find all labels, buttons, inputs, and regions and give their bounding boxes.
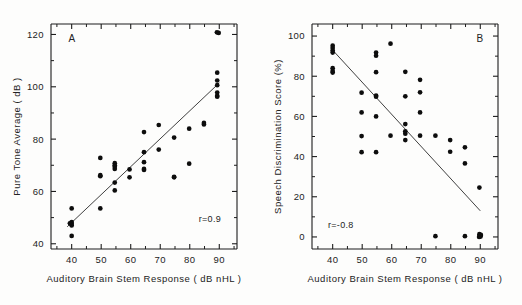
data-point <box>215 70 220 75</box>
panel-b: 405060708090020406080100Br=-0.8Auditory … <box>261 0 522 305</box>
y-tick-label: 0 <box>299 231 305 242</box>
data-point <box>127 175 132 180</box>
data-point <box>388 41 393 46</box>
panel-b-plot: 405060708090020406080100Br=-0.8Auditory … <box>261 0 522 305</box>
x-tick-label: 40 <box>66 254 77 265</box>
panel-letter: B <box>476 33 483 44</box>
data-point <box>374 94 379 99</box>
data-point <box>330 50 335 55</box>
x-tick-label: 90 <box>214 254 225 265</box>
regression-line <box>67 83 219 227</box>
correlation-annotation: r=-0.8 <box>328 220 354 230</box>
data-point <box>403 131 408 136</box>
y-axis-title: Pure Tone Average ( dB ) <box>11 77 22 195</box>
data-point <box>418 133 423 138</box>
data-point <box>69 234 74 239</box>
x-tick-label: 70 <box>155 254 166 265</box>
data-point <box>98 206 103 211</box>
x-tick-label: 70 <box>416 254 427 265</box>
data-point <box>359 90 364 95</box>
data-point <box>142 150 147 155</box>
data-point <box>403 94 408 99</box>
data-point <box>202 122 207 127</box>
y-tick-label: 60 <box>294 111 305 122</box>
data-point <box>359 110 364 115</box>
data-point <box>172 175 177 180</box>
data-point <box>374 70 379 75</box>
x-tick-label: 40 <box>327 254 338 265</box>
y-tick-label: 100 <box>27 81 44 92</box>
data-point <box>187 126 192 131</box>
data-point <box>112 180 117 185</box>
x-tick-label: 60 <box>125 254 136 265</box>
data-point <box>418 90 423 95</box>
figure-container: 405060708090406080100120Ar=0.9Auditory B… <box>0 0 522 305</box>
x-tick-label: 60 <box>386 254 397 265</box>
x-axis-title: Auditory Brain Stem Response ( dB nHL ) <box>308 273 503 284</box>
data-point <box>216 31 221 36</box>
data-point <box>403 122 408 127</box>
data-point <box>359 134 364 139</box>
y-tick-label: 120 <box>27 29 44 40</box>
data-point <box>215 94 220 99</box>
y-tick-label: 40 <box>294 151 305 162</box>
data-point <box>127 167 132 172</box>
panel-letter: A <box>68 33 75 44</box>
data-points <box>68 30 221 238</box>
data-point <box>112 188 117 193</box>
panel-a: 405060708090406080100120Ar=0.9Auditory B… <box>0 0 261 305</box>
data-point <box>98 156 103 161</box>
data-point <box>142 160 147 165</box>
data-point <box>156 147 161 152</box>
y-tick-label: 40 <box>33 238 44 249</box>
data-point <box>463 234 468 239</box>
data-point <box>463 161 468 166</box>
x-tick-label: 50 <box>96 254 107 265</box>
data-point <box>374 53 379 58</box>
data-points <box>330 41 483 239</box>
data-point <box>388 133 393 138</box>
data-point <box>142 168 147 173</box>
x-tick-label: 90 <box>475 254 486 265</box>
data-point <box>374 114 379 119</box>
x-tick-label: 50 <box>357 254 368 265</box>
data-point <box>142 130 147 135</box>
y-axis-title: Speech Discrimination Score (%) <box>272 59 283 214</box>
data-point <box>374 150 379 155</box>
y-tick-label: 80 <box>33 134 44 145</box>
data-point <box>156 123 161 128</box>
data-point <box>477 185 482 190</box>
data-point <box>463 145 468 150</box>
data-point <box>403 138 408 143</box>
data-point <box>418 78 423 83</box>
data-point <box>330 70 335 75</box>
x-tick-label: 80 <box>445 254 456 265</box>
data-point <box>187 161 192 166</box>
correlation-annotation: r=0.9 <box>199 214 221 224</box>
x-tick-label: 80 <box>184 254 195 265</box>
panel-a-plot: 405060708090406080100120Ar=0.9Auditory B… <box>0 0 261 305</box>
data-point <box>69 206 74 211</box>
data-point <box>359 150 364 155</box>
y-tick-label: 80 <box>294 71 305 82</box>
y-tick-label: 100 <box>288 30 305 41</box>
data-point <box>172 135 177 140</box>
data-point <box>433 133 438 138</box>
y-tick-label: 60 <box>33 186 44 197</box>
data-point <box>215 78 220 83</box>
data-point <box>215 83 220 88</box>
data-point <box>433 234 438 239</box>
y-tick-label: 20 <box>294 191 305 202</box>
data-point <box>479 233 484 238</box>
data-point <box>112 167 117 172</box>
data-point <box>98 174 103 179</box>
data-point <box>68 221 73 226</box>
data-point <box>448 138 453 143</box>
data-point <box>418 110 423 115</box>
data-point <box>403 69 408 74</box>
data-point <box>448 149 453 154</box>
x-axis-title: Auditory Brain Stem Response ( dB nHL ) <box>47 273 242 284</box>
